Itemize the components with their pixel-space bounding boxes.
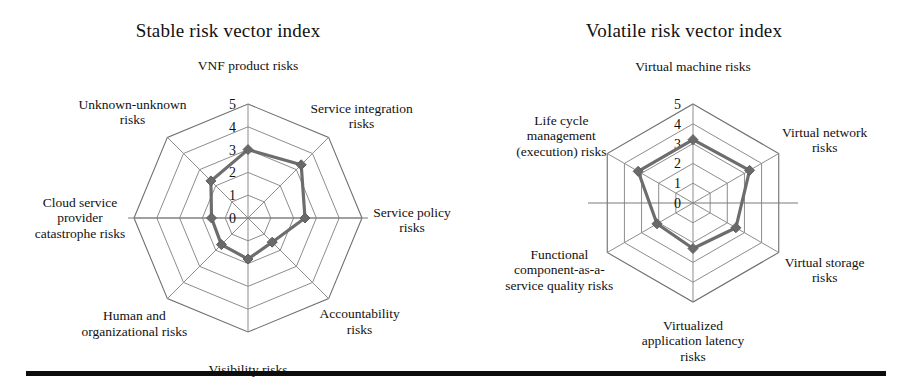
axis-label-5: Human and organizational risks: [59, 308, 209, 339]
tick-label-3: 3: [229, 143, 236, 158]
radar-chart-stable: 012345 VNF product risksService integrat…: [0, 0, 456, 355]
tick-label-5: 5: [674, 97, 681, 112]
data-point-6: [207, 213, 217, 223]
radar-chart-volatile: 012345 Virtual machine risksVirtual netw…: [456, 0, 912, 355]
chart-panel-stable: Stable risk vector index 012345 VNF prod…: [0, 0, 456, 355]
radar-svg-volatile: 012345: [456, 0, 912, 355]
axis-label-5: Life cycle management (execution) risks: [486, 113, 636, 160]
axis-label-7: Unknown-unknown risks: [57, 97, 207, 128]
chart-panel-volatile: Volatile risk vector index 012345 Virtua…: [456, 0, 912, 355]
axis-label-0: VNF product risks: [173, 58, 323, 74]
footer-rule: [26, 371, 886, 376]
radar-svg-stable: 012345: [0, 0, 456, 355]
axis-label-4: Functional component-as-a- service quali…: [484, 247, 634, 294]
figure-root: Stable risk vector index 012345 VNF prod…: [0, 0, 912, 387]
axis-label-0: Virtual machine risks: [618, 59, 768, 75]
axis-spoke-1: [693, 154, 779, 204]
axis-label-2: Virtual storage risks: [750, 255, 900, 286]
axis-label-3: Virtualized application latency risks: [618, 318, 768, 365]
axis-label-1: Virtual network risks: [750, 125, 900, 156]
tick-label-0: 0: [229, 211, 236, 226]
tick-label-4: 4: [674, 117, 681, 132]
axis-label-1: Service integration risks: [287, 101, 437, 132]
tick-label-0: 0: [674, 196, 681, 211]
axis-label-3: Accountability risks: [285, 306, 435, 337]
tick-label-1: 1: [674, 176, 681, 191]
tick-label-4: 4: [229, 120, 236, 135]
tick-label-5: 5: [229, 97, 236, 112]
tick-label-2: 2: [674, 156, 681, 171]
tick-label-1: 1: [229, 188, 236, 203]
series-polygon: [638, 140, 749, 249]
tick-label-2: 2: [229, 165, 236, 180]
axis-label-6: Cloud service provider catastrophe risks: [5, 195, 155, 242]
data-point-2: [731, 223, 741, 233]
